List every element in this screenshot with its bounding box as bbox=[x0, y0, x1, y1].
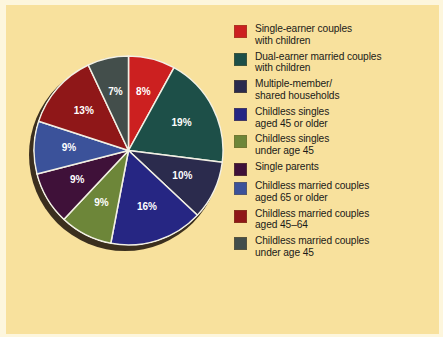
pie-slice-label: 13% bbox=[74, 105, 94, 116]
legend-item[interactable]: Childless married couples under age 45 bbox=[234, 235, 440, 259]
pie-slice-label: 9% bbox=[62, 142, 77, 153]
pie-slice-label: 9% bbox=[94, 197, 109, 208]
pie-slice-label: 16% bbox=[137, 201, 157, 212]
legend-item[interactable]: Multiple-member/ shared households bbox=[234, 78, 440, 102]
legend-item-label: Childless singles aged 45 or older bbox=[255, 106, 329, 130]
legend-item-label: Childless married couples under age 45 bbox=[255, 235, 369, 259]
pie-slice-label: 9% bbox=[70, 174, 85, 185]
legend-swatch-icon bbox=[234, 25, 247, 38]
legend-item[interactable]: Childless singles under age 45 bbox=[234, 133, 440, 157]
legend-item[interactable]: Single parents bbox=[234, 161, 440, 176]
legend-item-label: Dual-earner married couples with childre… bbox=[255, 51, 381, 75]
pie-chart-disc: 8%19%10%16%9%9%9%13%7% bbox=[33, 55, 224, 246]
legend-swatch-icon bbox=[234, 210, 247, 223]
pie-chart-figure: 8%19%10%16%9%9%9%13%7% bbox=[28, 51, 228, 273]
legend-swatch-icon bbox=[234, 53, 247, 66]
legend-item-label: Childless singles under age 45 bbox=[255, 133, 329, 157]
legend-item-label: Childless married couples aged 45–64 bbox=[255, 208, 369, 232]
legend-item-label: Single parents bbox=[255, 161, 319, 173]
legend-item[interactable]: Childless married couples aged 45–64 bbox=[234, 208, 440, 232]
legend-swatch-icon bbox=[234, 237, 247, 250]
pie-slice-label: 19% bbox=[172, 117, 192, 128]
legend-item-label: Multiple-member/ shared households bbox=[255, 78, 339, 102]
legend-item-label: Single-earner couples with children bbox=[255, 23, 352, 47]
legend-item[interactable]: Single-earner couples with children bbox=[234, 23, 440, 47]
pie-slice-label: 8% bbox=[136, 86, 151, 97]
legend-swatch-icon bbox=[234, 182, 247, 195]
legend-swatch-icon bbox=[234, 80, 247, 93]
legend-item-label: Childless married couples aged 65 or old… bbox=[255, 180, 369, 204]
chart-page: 8%19%10%16%9%9%9%13%7% Single-earner cou… bbox=[0, 0, 443, 337]
pie-chart-svg: 8%19%10%16%9%9%9%13%7% bbox=[33, 55, 224, 246]
legend-item[interactable]: Childless married couples aged 65 or old… bbox=[234, 180, 440, 204]
legend-item[interactable]: Dual-earner married couples with childre… bbox=[234, 51, 440, 75]
legend-swatch-icon bbox=[234, 163, 247, 176]
pie-slice-label: 10% bbox=[172, 170, 192, 181]
chart-panel: 8%19%10%16%9%9%9%13%7% Single-earner cou… bbox=[6, 5, 439, 334]
chart-legend: Single-earner couples with childrenDual-… bbox=[234, 23, 440, 263]
legend-swatch-icon bbox=[234, 108, 247, 121]
pie-slice-label: 7% bbox=[108, 86, 123, 97]
legend-item[interactable]: Childless singles aged 45 or older bbox=[234, 106, 440, 130]
legend-swatch-icon bbox=[234, 135, 247, 148]
